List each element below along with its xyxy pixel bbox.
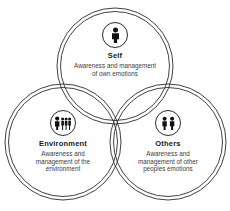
node-description: Awareness and management of the environm… — [7, 150, 119, 173]
node-description: Awareness and management of own emotions — [59, 62, 171, 77]
two-people-icon — [155, 110, 181, 136]
node-description: Awareness and management of other people… — [112, 150, 224, 173]
node-self: Self Awareness and management of own emo… — [59, 22, 171, 77]
three-circle-diagram: Self Awareness and management of own emo… — [0, 0, 230, 211]
single-person-icon — [102, 22, 128, 48]
node-others: Others Awareness and management of other… — [112, 110, 224, 173]
node-title: Environment — [7, 139, 119, 149]
node-title: Others — [112, 139, 224, 149]
node-title: Self — [59, 51, 171, 61]
group-of-people-icon — [50, 110, 76, 136]
node-environment: Environment Awareness and management of … — [7, 110, 119, 173]
